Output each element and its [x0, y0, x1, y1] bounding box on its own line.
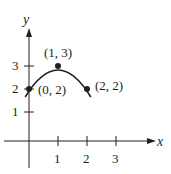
- point-2-2: [84, 86, 90, 92]
- point-0-2: [26, 86, 32, 92]
- point-label-1-3: (1, 3): [44, 45, 72, 60]
- x-tick-label-1: 1: [54, 151, 61, 166]
- y-tick-label-3: 3: [12, 58, 19, 73]
- point-label-0-2: (0, 2): [38, 82, 66, 97]
- x-tick-label-3: 3: [112, 151, 119, 166]
- point-1-3: [55, 63, 61, 69]
- x-axis-arrow-icon: [147, 138, 156, 144]
- x-tick-label-2: 2: [83, 151, 90, 166]
- y-axis-arrow-icon: [26, 28, 32, 37]
- point-label-2-2: (2, 2): [95, 78, 123, 93]
- y-tick-label-1: 1: [12, 104, 19, 119]
- y-tick-label-2: 2: [12, 81, 19, 96]
- x-axis-label: x: [156, 134, 164, 149]
- y-axis-label: y: [21, 12, 30, 27]
- parabola-chart: x y 1 2 3 1 2 3 (0, 2) (1, 3) (2, 2): [0, 0, 171, 174]
